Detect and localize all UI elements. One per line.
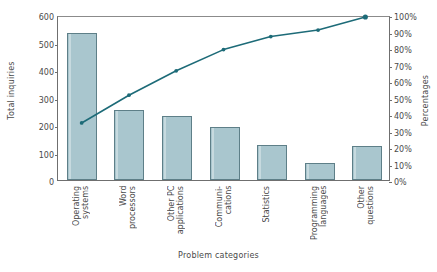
y-tick-label-left: 100 — [39, 150, 54, 159]
y-tick-label-right: 30% — [394, 128, 412, 137]
y-tick-label-left: 0 — [49, 178, 54, 187]
y-tick-mark-right — [389, 116, 392, 117]
y-tick-label-right: 10% — [394, 161, 412, 170]
x-category-label: Operating systems — [72, 186, 90, 226]
y-tick-label-right: 100% — [394, 13, 417, 22]
pareto-chart: Total inquiries Percentages Problem cate… — [0, 0, 437, 272]
x-axis-title: Problem categories — [0, 251, 437, 260]
data-point-marker — [222, 48, 226, 52]
data-point-marker — [363, 14, 368, 19]
y-tick-mark-right — [389, 83, 392, 84]
y-tick-mark-right — [389, 100, 392, 101]
x-category-label: Other questions — [357, 186, 375, 225]
data-point-marker — [127, 93, 131, 97]
x-category-label: Statistics — [262, 186, 271, 223]
y-tick-mark-right — [389, 34, 392, 35]
y-tick-mark-right — [389, 67, 392, 68]
y-tick-label-right: 50% — [394, 95, 412, 104]
y-tick-mark-right — [389, 182, 392, 183]
y-tick-label-right: 80% — [394, 46, 412, 55]
cumulative-line-series — [58, 17, 389, 180]
y-tick-label-right: 0% — [394, 178, 407, 187]
data-point-marker — [174, 69, 178, 73]
y-tick-mark-right — [389, 133, 392, 134]
y-tick-label-left: 600 — [39, 13, 54, 22]
y-tick-mark-right — [389, 50, 392, 51]
y-tick-mark-right — [389, 17, 392, 18]
plot-area: 0100200300400500600 0%10%20%30%40%50%60%… — [57, 16, 390, 181]
y-tick-label-left: 300 — [39, 95, 54, 104]
y-tick-mark-right — [389, 149, 392, 150]
data-point-marker — [80, 121, 84, 125]
y-tick-label-right: 40% — [394, 112, 412, 121]
y-tick-label-left: 500 — [39, 40, 54, 49]
x-category-label: Programming languages — [310, 186, 328, 240]
y-tick-label-left: 400 — [39, 68, 54, 77]
y-tick-label-right: 90% — [394, 29, 412, 38]
data-point-marker — [269, 35, 273, 39]
y-tick-label-left: 200 — [39, 123, 54, 132]
x-category-label: Other PC applications — [167, 186, 185, 234]
x-category-label: Communi- cations — [215, 186, 233, 227]
y-axis-title-right: Percentages — [421, 61, 430, 141]
data-point-marker — [316, 28, 320, 32]
y-tick-label-right: 20% — [394, 145, 412, 154]
y-tick-mark-right — [389, 166, 392, 167]
x-category-label: Word processors — [119, 186, 137, 229]
y-tick-label-right: 70% — [394, 62, 412, 71]
y-axis-title-left: Total inquiries — [7, 51, 16, 131]
cumulative-line — [82, 17, 366, 123]
y-tick-label-right: 60% — [394, 79, 412, 88]
